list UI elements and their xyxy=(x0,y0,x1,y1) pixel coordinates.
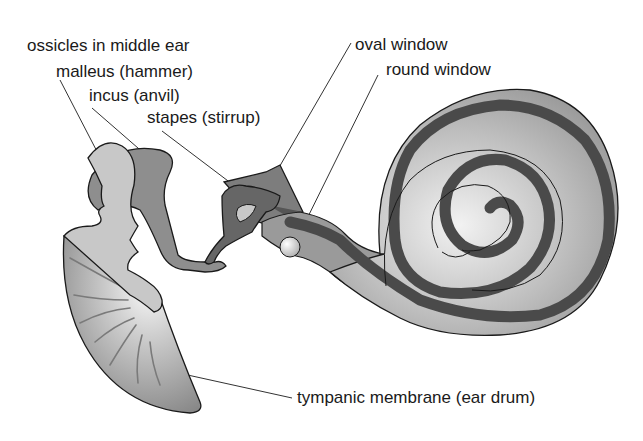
label-tympanic-membrane: tympanic membrane (ear drum) xyxy=(297,389,535,406)
label-incus: incus (anvil) xyxy=(89,87,180,104)
label-stapes: stapes (stirrup) xyxy=(147,109,260,126)
label-malleus: malleus (hammer) xyxy=(56,63,193,80)
label-ossicles: ossicles in middle ear xyxy=(27,37,190,54)
cochlea xyxy=(262,89,618,335)
oval-window-leader xyxy=(270,43,351,183)
label-oval-window: oval window xyxy=(355,36,448,53)
label-round-window: round window xyxy=(386,61,491,78)
round-window xyxy=(280,237,300,257)
